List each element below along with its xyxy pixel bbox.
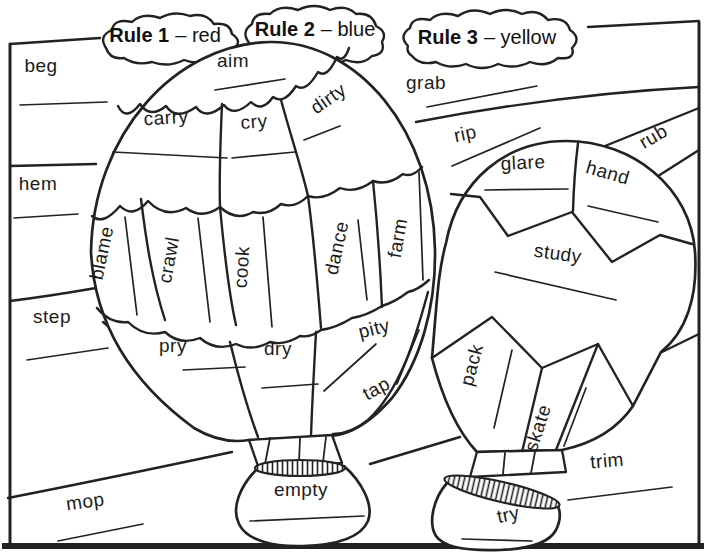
word-cry: cry [240,110,268,133]
rule-1-label: Rule 1– red [109,24,221,46]
hem-step-divider [10,288,96,301]
word-hem: hem [19,173,57,194]
word-rip: rip [452,121,478,146]
worksheet-canvas: Rule 1– red Rule 2– blue Rule 3– yellow … [0,0,706,555]
hill-line-between-baskets [370,437,460,464]
grab-rip-divider [416,87,699,122]
answer-line-hem [14,214,78,218]
answer-line-trim [568,487,672,500]
word-dry: dry [264,338,292,359]
beg-hem-divider [10,164,96,166]
rule-3-label: Rule 3– yellow [418,26,557,48]
word-glare: glare [500,151,546,174]
word-aim: aim [217,50,249,71]
word-carry: carry [143,106,189,129]
small-balloon-envelope [432,141,695,452]
word-rub: rub [635,120,671,153]
worksheet-page: Rule 1– red Rule 2– blue Rule 3– yellow … [0,0,706,555]
word-cook: cook [230,245,254,289]
large-basket-rim [255,460,345,476]
bottom-border [2,543,704,549]
word-pry: pry [159,335,187,356]
word-grab: grab [406,72,446,93]
word-mop: mop [65,488,106,514]
answer-line-glare [485,189,568,190]
rub-lower-divider [655,150,699,178]
word-beg: beg [24,55,57,76]
word-empty: empty [274,479,328,500]
answer-line-beg [20,102,107,105]
small-basket-neck [470,450,566,477]
mop-hill-line [8,452,232,498]
word-step: step [33,306,71,327]
answer-line-step [27,348,108,360]
word-trim: trim [589,449,624,473]
answer-line-mop [58,524,143,541]
